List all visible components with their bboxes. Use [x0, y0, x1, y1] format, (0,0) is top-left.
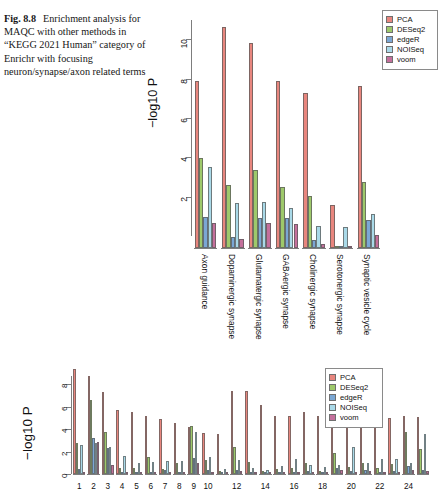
x-tick-label: 5 — [134, 482, 139, 491]
y-tick-label: 6 — [60, 406, 69, 426]
legend-item-edger: edgeR — [386, 35, 434, 44]
x-axis-segment — [87, 474, 99, 475]
bar-noiseq — [343, 227, 347, 248]
legend-label: voom — [340, 413, 359, 422]
bottom-bar-chart: −log10 P 02468 1234567891012141618202224… — [0, 360, 439, 503]
x-axis-segment — [374, 474, 386, 475]
x-tick-label: 20 — [347, 482, 356, 491]
x-axis-segment — [130, 474, 142, 475]
y-tick-label: 4 — [179, 157, 189, 179]
legend-swatch-voom — [386, 56, 393, 63]
x-axis-segment — [259, 474, 271, 475]
bar-voom — [212, 223, 216, 248]
x-axis-segment — [145, 474, 157, 475]
legend-label: edgeR — [340, 393, 362, 402]
legend-item-deseq2: DESeq2 — [386, 25, 434, 34]
legend-item-noiseq: NOISeq — [386, 45, 434, 54]
x-tick-label: 4 — [120, 482, 125, 491]
x-axis-segment — [275, 248, 299, 249]
x-tick-label: 10 — [203, 482, 212, 491]
x-axis-segment — [245, 474, 257, 475]
bar-pca — [288, 416, 290, 475]
x-axis-segment — [302, 474, 314, 475]
x-tick-label: 7 — [163, 482, 168, 491]
legend-item-voom: voom — [329, 413, 379, 422]
y-tick-label: 4 — [60, 429, 69, 449]
legend-label: NOISeq — [340, 403, 367, 412]
x-category-label: Glutamatergic synapse — [254, 254, 264, 340]
bar-pca — [260, 405, 262, 474]
x-axis-segment — [202, 474, 214, 475]
x-axis-segment — [102, 474, 114, 475]
figure-caption: Fig. 8.8Enrichment analysis for MAQC wit… — [4, 12, 154, 78]
bar-pca — [217, 434, 219, 475]
x-axis-segment — [288, 474, 300, 475]
legend-label: DESeq2 — [397, 25, 425, 34]
bar-voom — [111, 465, 113, 474]
bar-voom — [294, 224, 298, 248]
legend-label: PCA — [397, 15, 413, 24]
legend-label: PCA — [340, 373, 356, 382]
x-axis-segment — [417, 474, 429, 475]
x-axis-segment — [194, 248, 218, 249]
y-tick-label: 6 — [179, 118, 189, 140]
x-axis-segment — [329, 248, 353, 249]
bar-voom — [239, 239, 243, 248]
x-category-label: Synaptic vesicle cycle — [362, 254, 372, 335]
x-tick-label: 6 — [148, 482, 153, 491]
legend-label: DESeq2 — [340, 383, 368, 392]
x-tick-label: 16 — [289, 482, 298, 491]
x-axis-segment — [187, 474, 199, 475]
legend-item-edger: edgeR — [329, 393, 379, 402]
x-axis-segment — [345, 474, 357, 475]
x-axis-segment — [221, 248, 245, 249]
bar-pca — [116, 410, 118, 474]
x-tick-label: 12 — [232, 482, 241, 491]
x-axis-segment — [116, 474, 128, 475]
x-axis-segment — [230, 474, 242, 475]
legend-item-pca: PCA — [329, 373, 379, 382]
legend-swatch-noiseq — [329, 404, 336, 411]
y-tick-label: 2 — [179, 197, 189, 219]
x-axis-segment — [216, 474, 228, 475]
legend-swatch-pca — [329, 374, 336, 381]
legend-swatch-pca — [386, 16, 393, 23]
bar-voom — [97, 442, 99, 474]
bottom-chart-y-axis-title: −log10 P — [20, 406, 35, 460]
x-tick-label: 8 — [177, 482, 182, 491]
x-category-label: Cholinergic synapse — [308, 254, 318, 329]
legend-label: voom — [397, 55, 416, 64]
bar-pca — [131, 412, 133, 474]
figure-number: Fig. 8.8 — [4, 13, 36, 24]
bar-noiseq — [424, 434, 426, 475]
x-category-label: Serotonergic synapse — [335, 254, 345, 335]
x-axis-segment — [388, 474, 400, 475]
bar-pca — [159, 419, 161, 474]
legend-item-noiseq: NOISeq — [329, 403, 379, 412]
x-axis-segment — [359, 474, 371, 475]
legend-item-deseq2: DESeq2 — [329, 383, 379, 392]
x-axis-segment — [302, 248, 326, 249]
bottom-chart-legend: PCADESeq2edgeRNOISeqvoom — [325, 368, 383, 428]
y-tick-label: 2 — [60, 451, 69, 471]
x-category-label: Axon guidance — [200, 254, 210, 309]
legend-label: edgeR — [397, 35, 419, 44]
top-chart-legend: PCADESeq2edgeRNOISeqvoom — [382, 10, 438, 70]
x-axis-segment — [73, 474, 85, 475]
y-tick-label: 8 — [179, 79, 189, 101]
x-axis-segment — [316, 474, 328, 475]
top-bar-chart: −log10 P 246810 Axon guidanceDopaminergi… — [150, 8, 439, 348]
legend-swatch-edger — [329, 394, 336, 401]
legend-swatch-deseq2 — [386, 26, 393, 33]
x-tick-label: 9 — [191, 482, 196, 491]
y-tick-label: 8 — [60, 384, 69, 404]
x-tick-label: 2 — [91, 482, 96, 491]
top-chart-y-axis-title: −log10 P — [146, 78, 160, 128]
bar-noiseq — [352, 447, 354, 474]
x-axis-segment — [402, 474, 414, 475]
x-tick-label: 14 — [261, 482, 270, 491]
x-tick-label: 3 — [106, 482, 111, 491]
top-chart-plot-area — [192, 20, 382, 248]
x-axis-segment — [173, 474, 185, 475]
x-axis-segment — [273, 474, 285, 475]
